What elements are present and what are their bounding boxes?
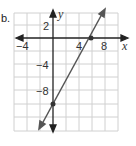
coordinate-plane: y x 2 −4 −8 −4 4 8 xyxy=(0,0,136,146)
x-axis xyxy=(16,35,128,41)
x-tick-4: 4 xyxy=(76,40,82,52)
x-tick-neg4: −4 xyxy=(16,40,29,52)
x-axis-label: x xyxy=(121,39,128,53)
y-tick-2: 2 xyxy=(43,20,49,32)
grid xyxy=(14,13,118,131)
y-tick-neg4: −4 xyxy=(36,59,49,71)
y-axis xyxy=(50,10,56,132)
x-tick-8: 8 xyxy=(101,40,107,52)
y-tick-neg8: −8 xyxy=(36,85,49,97)
y-axis-label: y xyxy=(57,7,64,21)
y-intercept-point xyxy=(51,102,56,107)
x-intercept-point xyxy=(89,36,94,41)
